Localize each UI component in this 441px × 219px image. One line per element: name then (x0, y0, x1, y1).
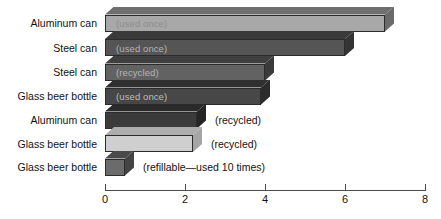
x-axis-tick (345, 184, 346, 191)
x-axis-tick (425, 184, 426, 191)
energy-use-bar-chart: Aluminum can(used once)Steel can(used on… (0, 0, 441, 219)
bar-annotation: (refillable—used 10 times) (143, 161, 265, 173)
category-label: Glass beer bottle (0, 161, 97, 173)
x-axis-tick (185, 184, 186, 191)
x-axis-tick-label: 0 (102, 193, 108, 205)
bar-top-face (105, 104, 206, 112)
bar-annotation: (recycled) (211, 138, 257, 150)
bar-group (105, 151, 134, 176)
bar-top-face (105, 7, 394, 15)
bar-group (105, 104, 206, 129)
bar-front-face (105, 135, 193, 152)
bar-annotation: (recycled) (215, 114, 261, 126)
category-label: Glass beer bottle (0, 90, 97, 102)
category-label: Aluminum can (0, 17, 97, 29)
bar-annotation: (used once) (116, 91, 167, 102)
bar-top-face (105, 31, 354, 39)
x-axis-tick-label: 6 (342, 193, 348, 205)
bar-annotation: (used once) (116, 42, 167, 53)
bar-front-face (105, 159, 125, 176)
x-axis-tick (105, 184, 106, 191)
bar-top-face (105, 127, 202, 135)
bar-annotation: (recycled) (116, 67, 159, 78)
category-label: Aluminum can (0, 114, 97, 126)
bar-front-face (105, 112, 197, 129)
bar-top-face (105, 56, 274, 64)
category-label: Glass beer bottle (0, 138, 97, 150)
x-axis-tick-label: 2 (182, 193, 188, 205)
x-axis-tick-label: 4 (262, 193, 268, 205)
bar-top-face (105, 80, 270, 88)
bar-annotation: (used once) (116, 18, 167, 29)
x-axis-tick-label: 8 (422, 193, 428, 205)
x-axis-tick (265, 184, 266, 191)
category-label: Steel can (0, 42, 97, 54)
category-label: Steel can (0, 66, 97, 78)
bar-group (105, 127, 202, 152)
